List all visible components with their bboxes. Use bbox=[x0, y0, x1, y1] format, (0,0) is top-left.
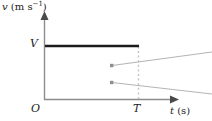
y-axis-label-unit-close: ) bbox=[43, 1, 47, 12]
increasing-branch bbox=[110, 52, 212, 67]
increasing-branch-start-dot bbox=[110, 64, 113, 67]
decreasing-branch bbox=[110, 81, 212, 94]
y-axis bbox=[41, 11, 49, 100]
y-axis-label-exponent: −1 bbox=[33, 0, 43, 8]
velocity-time-graph: v (m s−1) t (s) O V T bbox=[0, 0, 212, 121]
origin-label: O bbox=[31, 103, 40, 114]
y-axis-label: v (m s−1) bbox=[2, 2, 47, 12]
x-axis bbox=[44, 96, 179, 104]
x-axis-arrowhead bbox=[170, 96, 179, 104]
x-tick-label-T: T bbox=[133, 103, 140, 114]
y-axis-label-unit-open: (m s bbox=[8, 1, 33, 12]
decreasing-branch-start-dot bbox=[110, 81, 113, 84]
decreasing-branch-line bbox=[112, 83, 212, 95]
y-tick-label-V: V bbox=[30, 38, 38, 49]
x-axis-label-unit: (s) bbox=[174, 105, 190, 116]
y-axis-arrowhead bbox=[41, 11, 49, 20]
x-axis-label: t (s) bbox=[170, 106, 190, 116]
increasing-branch-line bbox=[112, 52, 212, 66]
